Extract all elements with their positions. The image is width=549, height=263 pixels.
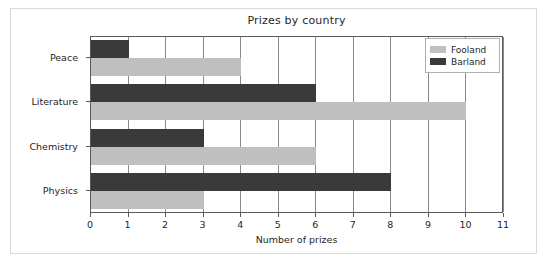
x-tick-mark xyxy=(278,213,279,217)
legend-swatch-icon xyxy=(430,46,446,53)
bar-fooland xyxy=(91,102,466,120)
x-tick-label: 9 xyxy=(425,219,431,230)
bar-fooland xyxy=(91,147,316,165)
x-tick-label: 10 xyxy=(459,219,471,230)
bar-group xyxy=(91,126,502,170)
legend-item: Barland xyxy=(430,56,494,67)
x-tick-label: 0 xyxy=(87,219,93,230)
bar-barland xyxy=(91,173,391,191)
x-tick-mark xyxy=(353,213,354,217)
legend: FoolandBarland xyxy=(425,38,500,73)
x-tick-label: 8 xyxy=(387,219,393,230)
y-tick-label: Peace xyxy=(0,52,78,63)
x-tick-label: 3 xyxy=(200,219,206,230)
x-tick-label: 4 xyxy=(237,219,243,230)
x-axis-label: Number of prizes xyxy=(90,234,503,245)
bar-barland xyxy=(91,40,129,58)
bar-fooland xyxy=(91,58,241,76)
bar-group xyxy=(91,81,502,125)
legend-item: Fooland xyxy=(430,44,494,55)
x-tick-mark xyxy=(315,213,316,217)
y-tick-label: Chemistry xyxy=(0,140,78,151)
bar-fooland xyxy=(91,191,204,209)
x-tick-label: 1 xyxy=(125,219,131,230)
x-tick-mark xyxy=(128,213,129,217)
x-tick-mark xyxy=(165,213,166,217)
x-tick-label: 2 xyxy=(162,219,168,230)
legend-label: Fooland xyxy=(451,45,486,55)
gridline xyxy=(503,37,504,212)
x-tick-mark xyxy=(390,213,391,217)
x-tick-label: 5 xyxy=(275,219,281,230)
bar-barland xyxy=(91,84,316,102)
x-tick-mark xyxy=(465,213,466,217)
y-tick-label: Physics xyxy=(0,184,78,195)
x-tick-mark xyxy=(428,213,429,217)
legend-label: Barland xyxy=(451,57,486,67)
x-tick-mark xyxy=(240,213,241,217)
x-tick-label: 7 xyxy=(350,219,356,230)
x-tick-mark xyxy=(503,213,504,217)
bar-group xyxy=(91,170,502,214)
chart-title: Prizes by country xyxy=(90,14,503,27)
bar-barland xyxy=(91,129,204,147)
x-tick-label: 11 xyxy=(497,219,509,230)
x-tick-mark xyxy=(203,213,204,217)
x-tick-mark xyxy=(90,213,91,217)
x-tick-label: 6 xyxy=(312,219,318,230)
figure-canvas: Prizes by country PeaceLiteratureChemist… xyxy=(0,0,549,263)
legend-swatch-icon xyxy=(430,58,446,65)
y-tick-label: Literature xyxy=(0,96,78,107)
